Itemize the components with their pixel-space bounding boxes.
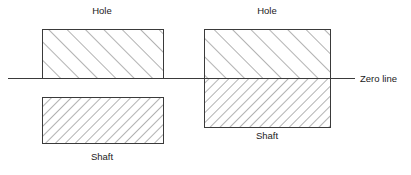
tolerance-diagram: HoleShaftHoleShaftZero line xyxy=(0,0,411,175)
zones-layer xyxy=(42,29,330,143)
hole-label-interference-fit: Hole xyxy=(257,6,277,16)
shaft-label-clearance-fit: Shaft xyxy=(91,152,113,162)
hole-label-clearance-fit: Hole xyxy=(92,6,112,16)
hole-zone-interference-fit xyxy=(204,29,330,78)
diagram-canvas xyxy=(0,0,411,175)
zero-line-label: Zero line xyxy=(360,74,397,84)
shaft-zone-interference-fit xyxy=(204,78,330,127)
shaft-label-interference-fit: Shaft xyxy=(256,131,278,141)
shaft-zone-clearance-fit xyxy=(42,97,163,143)
hole-zone-clearance-fit xyxy=(42,29,163,78)
